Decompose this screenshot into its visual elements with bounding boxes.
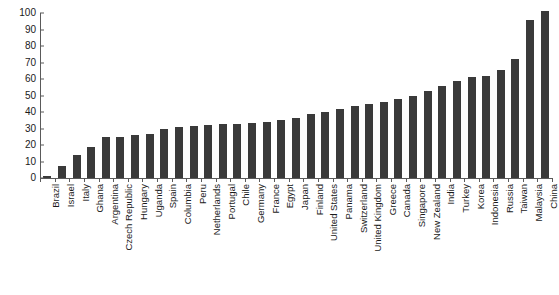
- y-axis-tick-label: 80: [25, 41, 36, 51]
- bar: [219, 124, 227, 178]
- y-axis-tick-label: 100: [19, 8, 36, 18]
- y-axis-tick-mark: [40, 62, 44, 63]
- y-axis-tick-mark: [40, 79, 44, 80]
- x-axis-tick-mark: [274, 178, 275, 182]
- x-axis-category-label: Chile: [241, 184, 251, 206]
- x-axis-tick-mark: [318, 178, 319, 182]
- bar: [87, 147, 95, 178]
- x-axis-category-label: Germany: [256, 184, 266, 223]
- x-axis-category-label: Czech Republic: [124, 184, 134, 251]
- bar: [409, 96, 417, 179]
- x-axis-tick-mark: [230, 178, 231, 182]
- x-axis-category-label: Indonesia: [490, 184, 500, 225]
- y-axis-tick-label: 70: [25, 58, 36, 68]
- bar: [190, 126, 198, 178]
- x-axis-category-label: New Zealand: [432, 184, 442, 240]
- x-axis-tick-mark: [450, 178, 451, 182]
- x-axis-tick-mark: [420, 178, 421, 182]
- y-axis-tick-labels: 0102030405060708090100: [0, 13, 36, 178]
- x-axis-category-label: Finland: [315, 184, 325, 215]
- x-axis-category-label: Russia: [505, 184, 515, 213]
- y-axis-tick-label: 30: [25, 124, 36, 134]
- x-axis-category-label: Egypt: [285, 184, 295, 208]
- y-axis-tick-mark: [40, 128, 44, 129]
- x-axis-tick-mark: [376, 178, 377, 182]
- x-axis-category-label: United Kingdom: [373, 184, 383, 252]
- x-axis-tick-mark: [493, 178, 494, 182]
- y-axis-tick-label: 0: [30, 173, 36, 183]
- bar: [43, 176, 51, 178]
- x-axis-tick-mark: [523, 178, 524, 182]
- x-axis-category-label: Switzerland: [359, 184, 369, 233]
- bar: [468, 77, 476, 178]
- bar: [511, 59, 519, 178]
- y-axis-tick-mark: [40, 161, 44, 162]
- x-axis-category-label: Ghana: [95, 184, 105, 213]
- y-axis-tick-mark: [40, 29, 44, 30]
- bar-series: [40, 13, 552, 178]
- x-axis-tick-mark: [464, 178, 465, 182]
- x-axis-tick-mark: [435, 178, 436, 182]
- x-axis-tick-mark: [508, 178, 509, 182]
- x-axis-category-label: Columbia: [183, 184, 193, 224]
- x-axis-tick-mark: [245, 178, 246, 182]
- bar: [307, 114, 315, 178]
- bar: [204, 125, 212, 178]
- y-axis-tick-label: 20: [25, 140, 36, 150]
- x-axis-tick-mark: [303, 178, 304, 182]
- x-axis-tick-mark: [69, 178, 70, 182]
- x-axis-category-label: Greece: [388, 184, 398, 215]
- x-axis-tick-mark: [157, 178, 158, 182]
- y-axis-tick-label: 50: [25, 91, 36, 101]
- bar: [116, 137, 124, 178]
- bar: [263, 122, 271, 178]
- bar: [526, 20, 534, 178]
- bar: [233, 124, 241, 178]
- x-axis-category-label: China: [549, 184, 559, 209]
- bar: [336, 109, 344, 178]
- bar: [424, 91, 432, 178]
- bar: [497, 70, 505, 178]
- x-axis-tick-mark: [406, 178, 407, 182]
- x-axis-category-label: Netherlands: [212, 184, 222, 235]
- x-axis-category-label: Canada: [402, 184, 412, 217]
- bar: [365, 104, 373, 178]
- x-axis-category-label: Uganda: [154, 184, 164, 217]
- x-axis-tick-mark: [479, 178, 480, 182]
- x-axis-tick-mark: [128, 178, 129, 182]
- x-axis-category-label: United States: [329, 184, 339, 241]
- bar: [146, 134, 154, 178]
- y-axis-tick-mark: [40, 46, 44, 47]
- bar: [175, 127, 183, 178]
- x-axis-category-label: India: [446, 184, 456, 205]
- x-axis-tick-mark: [99, 178, 100, 182]
- y-axis-tick-label: 60: [25, 74, 36, 84]
- x-axis-tick-mark: [172, 178, 173, 182]
- bar: [131, 135, 139, 178]
- x-axis-tick-mark: [84, 178, 85, 182]
- bar: [160, 129, 168, 179]
- bar: [58, 166, 66, 178]
- x-axis-category-label: Peru: [198, 184, 208, 204]
- bar: [394, 99, 402, 178]
- bar: [351, 106, 359, 178]
- bar: [380, 102, 388, 178]
- x-axis-category-label: Panama: [344, 184, 354, 219]
- x-axis-category-label: Taiwan: [519, 184, 529, 214]
- x-axis-tick-mark: [537, 178, 538, 182]
- bar: [453, 81, 461, 178]
- x-axis-category-label: France: [271, 184, 281, 214]
- x-axis-tick-mark: [391, 178, 392, 182]
- x-axis-line: [40, 178, 552, 179]
- x-axis-category-label: Portugal: [227, 184, 237, 219]
- x-axis-tick-mark: [216, 178, 217, 182]
- x-axis-tick-mark: [333, 178, 334, 182]
- x-axis-category-label: Spain: [168, 184, 178, 208]
- y-axis-tick-mark: [40, 145, 44, 146]
- x-axis-category-label: Korea: [476, 184, 486, 209]
- x-axis-category-label: Turkey: [461, 184, 471, 213]
- x-axis-category-label: Italy: [81, 184, 91, 201]
- y-axis-tick-label: 40: [25, 107, 36, 117]
- y-axis-tick-label: 90: [25, 25, 36, 35]
